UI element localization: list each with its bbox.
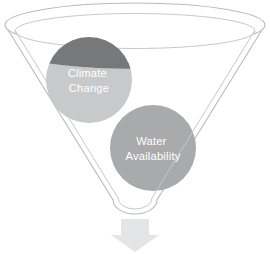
funnel-diagram-canvas: Climate Change Water Availability (0, 0, 270, 254)
funnel-inner-rim (15, 14, 255, 49)
funnel-diagram: Climate Change Water Availability (0, 0, 270, 254)
output-arrow (111, 219, 159, 252)
